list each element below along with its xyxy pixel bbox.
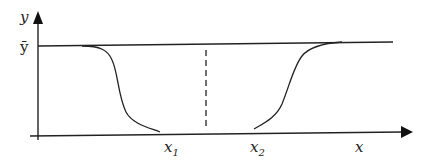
x-axis-arrow-icon bbox=[401, 126, 413, 138]
x2-label: x2 bbox=[250, 140, 265, 158]
y-axis-arrow-icon bbox=[33, 11, 43, 24]
x-axis bbox=[30, 132, 402, 136]
left-curve bbox=[82, 46, 160, 132]
x1-label: x1 bbox=[164, 140, 179, 158]
right-curve bbox=[254, 42, 342, 129]
x-axis-label: x bbox=[355, 140, 363, 155]
ybar-label: ȳ bbox=[20, 40, 28, 55]
y-axis-label: y bbox=[20, 10, 28, 25]
diagram-canvas bbox=[0, 0, 430, 161]
x1-sub: 1 bbox=[172, 147, 178, 158]
x2-sub: 2 bbox=[258, 147, 264, 158]
